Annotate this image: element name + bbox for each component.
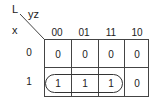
- column-header-00: 00: [44, 27, 70, 39]
- column-header-10: 10: [124, 27, 150, 39]
- column-header-01: 01: [71, 27, 97, 39]
- cell-x0-yz10: 0: [124, 40, 150, 68]
- row-header-1: 1: [24, 76, 34, 88]
- row-header-0: 0: [24, 47, 34, 59]
- cell-x0-yz01: 0: [72, 40, 98, 68]
- grouping-loop: [45, 74, 123, 93]
- cell-x0-yz00: 0: [45, 40, 71, 68]
- cell-x0-yz11: 0: [98, 40, 124, 68]
- cell-x1-yz10: 0: [124, 69, 150, 97]
- column-header-11: 11: [98, 27, 124, 39]
